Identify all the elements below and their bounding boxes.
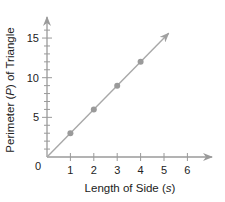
data-point bbox=[67, 130, 73, 136]
data-point bbox=[114, 83, 120, 89]
y-tick-label: 15 bbox=[27, 32, 39, 44]
chart: 123456 51015 0 Length of Side (s) Perime… bbox=[0, 0, 225, 202]
x-axis-title: Length of Side (s) bbox=[85, 182, 176, 194]
data-point bbox=[91, 106, 97, 112]
x-tick-label: 4 bbox=[138, 164, 144, 176]
x-tick-label: 6 bbox=[184, 164, 190, 176]
x-tick-label: 1 bbox=[67, 164, 73, 176]
y-tick-labels: 51015 bbox=[27, 32, 39, 123]
x-tick-label: 5 bbox=[161, 164, 167, 176]
y-axis-title: Perimeter (P) of Triangle bbox=[4, 27, 16, 152]
y-tick-label: 5 bbox=[33, 111, 39, 123]
data-line bbox=[47, 33, 169, 157]
x-tick-label: 3 bbox=[114, 164, 120, 176]
origin-label: 0 bbox=[35, 160, 41, 172]
data-point bbox=[138, 59, 144, 65]
y-tick-label: 10 bbox=[27, 72, 39, 84]
x-tick-labels: 123456 bbox=[67, 164, 190, 176]
x-tick-label: 2 bbox=[91, 164, 97, 176]
